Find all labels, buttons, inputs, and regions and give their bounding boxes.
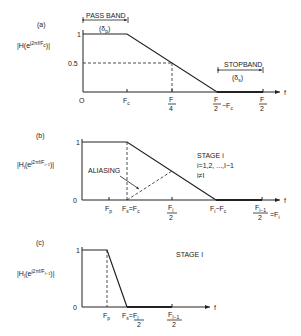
- svg-text:2: 2: [172, 321, 176, 328]
- panel-c-xtick-fs: Fs=FI 2: [122, 312, 144, 328]
- panel-c-ytick-1: 1: [76, 247, 80, 254]
- panel-c-xaxis-label: f: [214, 304, 216, 311]
- svg-text:|HI(ej2πf/FI−1)|: |HI(ej2πf/FI−1)|: [17, 268, 55, 279]
- svg-text:F: F: [214, 96, 218, 103]
- svg-text:FI−1: FI−1: [168, 311, 180, 320]
- svg-text:F: F: [169, 96, 173, 103]
- panel-b-xaxis-label: f: [284, 197, 286, 204]
- panel-a: (a) |H(ej2πf/Fc)| f 1 0.5 O Fc F 4 F: [17, 12, 286, 112]
- panel-b-ytick-1: 1: [76, 139, 80, 146]
- svg-text:Fs=FI: Fs=FI: [122, 312, 139, 321]
- panel-b: (b) |Hi(ej2πf/Fi−1)| f 1 0 Fp Fs=Fc Fi 2…: [17, 132, 286, 221]
- panel-c-ylabel: |HI(ej2πf/FI−1)|: [17, 268, 55, 279]
- panel-b-xtick-fi-2: Fi 2: [167, 204, 177, 221]
- panel-c-label: (c): [36, 239, 44, 247]
- svg-text:ALIASING: ALIASING: [88, 167, 120, 174]
- panel-b-xtick-fs-fc: Fs=Fc: [122, 205, 140, 214]
- svg-text:Fi−1: Fi−1: [255, 204, 266, 213]
- panel-c-xtick-fi1-2: FI−1 2: [167, 311, 182, 328]
- panel-a-ytick-05: 0.5: [68, 60, 78, 67]
- svg-text:2: 2: [214, 105, 218, 112]
- stopband-delta: (δs): [232, 74, 243, 83]
- passband-label: PASS BAND: [86, 12, 126, 19]
- svg-text:i≠I: i≠I: [197, 172, 204, 179]
- panel-c-stage-label: STAGE I: [176, 251, 203, 258]
- panel-a-stopband-annotation: STOPBAND (δs): [218, 61, 263, 83]
- svg-text:Fi: Fi: [168, 204, 173, 213]
- svg-text:2: 2: [258, 214, 262, 221]
- panel-b-aliasing-annotation: ALIASING: [88, 167, 139, 189]
- panel-a-xtick-fc: Fc: [123, 97, 130, 106]
- panel-a-xtick-f4: F 4: [168, 96, 176, 112]
- svg-text:2: 2: [137, 321, 141, 328]
- svg-text:2: 2: [260, 105, 264, 112]
- panel-a-passband-annotation: PASS BAND (δp): [83, 12, 128, 34]
- svg-text:−Fc: −Fc: [222, 102, 233, 111]
- panel-c-response-curve: [82, 250, 127, 307]
- svg-text:|H(ej2πf/Fc)|: |H(ej2πf/Fc)|: [17, 40, 50, 50]
- panel-c-ytick-0: 0: [73, 304, 77, 311]
- svg-text:2: 2: [169, 214, 173, 221]
- panel-a-xtick-f2-minus-fc: F 2 −Fc: [213, 96, 233, 112]
- panel-b-ytick-0: 0: [73, 197, 77, 204]
- panel-a-origin: O: [79, 97, 85, 104]
- panel-c-xtick-fp: Fp: [103, 312, 110, 321]
- panel-b-xtick-fi-fc: Fi−Fc: [210, 205, 227, 214]
- panel-b-xtick-fi1-2: Fi−1 2 =Fi: [253, 204, 280, 221]
- panel-c: (c) |HI(ej2πf/FI−1)| f 1 0 Fp Fs=FI 2 FI…: [17, 239, 216, 328]
- multistage-filter-diagram: (a) |H(ej2πf/Fc)| f 1 0.5 O Fc F 4 F: [0, 0, 301, 336]
- svg-text:|Hi(ej2πf/Fi−1)|: |Hi(ej2πf/Fi−1)|: [17, 159, 54, 170]
- panel-b-stage-text: STAGE i i=1,2, ...,I−1 i≠I: [197, 152, 234, 179]
- svg-text:=Fi: =Fi: [270, 211, 280, 220]
- panel-a-xtick-f2: F 2: [259, 96, 267, 112]
- svg-text:STAGE i: STAGE i: [197, 152, 224, 159]
- stopband-label: STOPBAND: [224, 61, 262, 68]
- panel-a-xaxis-label: f: [284, 89, 286, 96]
- passband-delta: (δp): [99, 25, 110, 34]
- panel-b-ylabel: |Hi(ej2πf/Fi−1)|: [17, 159, 54, 170]
- svg-text:F: F: [260, 96, 264, 103]
- panel-a-ytick-1: 1: [77, 31, 81, 38]
- panel-a-ylabel: |H(ej2πf/Fc)|: [17, 40, 50, 50]
- panel-a-label: (a): [37, 21, 46, 29]
- svg-text:4: 4: [169, 105, 173, 112]
- panel-b-xtick-fp: Fp: [105, 205, 112, 214]
- svg-text:i=1,2, ...,I−1: i=1,2, ...,I−1: [197, 162, 234, 169]
- panel-b-label: (b): [36, 132, 45, 140]
